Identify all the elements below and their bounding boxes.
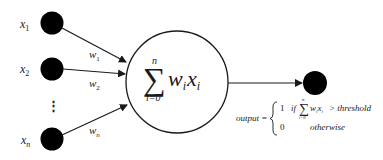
- case2-condition: otherwise: [310, 122, 345, 132]
- sum-lower-limit: i=0: [146, 92, 161, 103]
- input-label-n: xn: [20, 133, 30, 149]
- case1-sigma-lower: i=0: [299, 115, 306, 120]
- input-label-2: x2: [19, 62, 29, 78]
- case2-value: 0: [280, 122, 285, 132]
- case1-sigma: ∑: [299, 101, 309, 116]
- input-node-n: [41, 128, 64, 151]
- case1-term: wixi: [310, 103, 323, 114]
- case1-comparison: > threshold: [329, 103, 371, 113]
- input-node-2: [41, 58, 64, 81]
- output-node: [303, 71, 327, 95]
- input-label-1: x1: [19, 17, 29, 33]
- case1-if: if: [291, 103, 298, 113]
- weight-label-2: w2: [89, 77, 100, 92]
- weight-label-1: w1: [89, 48, 100, 63]
- perceptron-diagram: x1 x2 xn ⋮ w1 w2 wn n ∑ i=0 wixi output …: [0, 0, 383, 160]
- vertical-ellipsis: ⋮: [47, 98, 60, 113]
- weight-arrow-2: [63, 69, 125, 74]
- output-brace: [270, 102, 277, 135]
- input-node-1: [41, 12, 64, 35]
- case1-value: 1: [280, 103, 285, 113]
- weight-label-n: wn: [89, 124, 100, 139]
- output-lhs: output =: [236, 113, 267, 123]
